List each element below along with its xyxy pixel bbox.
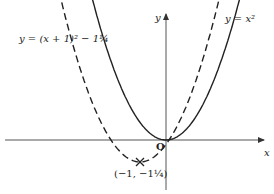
label-y-axis: y (155, 12, 161, 23)
label-origin: O (156, 141, 165, 152)
curve-shifted-parabola (54, 0, 226, 162)
label-x-axis: x (264, 147, 270, 158)
label-base-curve: y = x² (225, 13, 255, 24)
label-shifted-curve: y = (x + 1)² − 1¼ (19, 33, 109, 44)
label-vertex: (−1, −1¼) (114, 168, 167, 179)
graph-canvas (0, 0, 274, 194)
